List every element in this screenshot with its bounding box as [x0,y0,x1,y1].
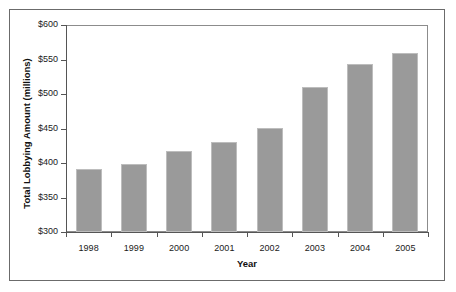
x-axis-title: Year [66,258,428,269]
y-axis-title: Total Lobbying Amount (millions) [21,34,32,234]
x-tick [247,233,248,237]
x-tick [338,233,339,237]
x-tick-label-2002: 2002 [247,243,292,253]
y-tick-label-wrap: $300 [8,227,58,236]
x-tick [292,233,293,237]
x-tick [428,233,429,237]
x-tick [202,233,203,237]
y-tick-label-wrap: $550 [8,55,58,64]
bar-2004 [347,64,373,232]
bar-2003 [302,87,328,232]
y-tick-label: $500 [12,89,58,98]
y-tick-label: $450 [12,124,58,133]
bar-2005 [392,53,418,232]
y-tick-550 [61,60,66,61]
chart-figure: $600$550$500$450$400$350$300 19981999200… [0,0,456,292]
y-tick-label-wrap: $600 [8,20,58,29]
y-tick-400 [61,163,66,164]
y-tick-label: $300 [12,227,58,236]
x-tick [66,233,67,237]
y-tick-500 [61,94,66,95]
y-axis-line [66,25,67,233]
bar-1998 [76,169,102,232]
x-tick-label-1999: 1999 [111,243,156,253]
y-tick-450 [61,129,66,130]
y-tick-label: $600 [12,20,58,29]
y-tick-label-wrap: $400 [8,158,58,167]
x-tick-label-2005: 2005 [383,243,428,253]
x-tick [383,233,384,237]
x-tick-label-2001: 2001 [202,243,247,253]
y-tick-label: $350 [12,193,58,202]
x-tick-label-1998: 1998 [66,243,111,253]
x-tick-label-2004: 2004 [338,243,383,253]
y-tick-label-wrap: $350 [8,193,58,202]
y-tick-label: $400 [12,158,58,167]
bar-1999 [121,164,147,232]
y-tick-350 [61,198,66,199]
bar-2002 [257,128,283,232]
y-tick-label: $550 [12,55,58,64]
x-tick-label-2000: 2000 [157,243,202,253]
y-tick-label-wrap: $500 [8,89,58,98]
x-tick-label-2003: 2003 [292,243,337,253]
y-tick-600 [61,25,66,26]
bar-2001 [211,142,237,232]
x-tick [111,233,112,237]
bar-2000 [166,151,192,232]
x-tick [157,233,158,237]
y-tick-label-wrap: $450 [8,124,58,133]
